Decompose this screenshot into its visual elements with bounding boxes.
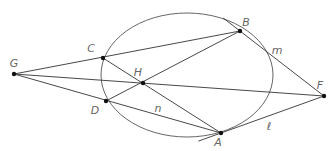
point-C [101, 56, 105, 60]
point-H [141, 81, 145, 85]
label-D: D [91, 104, 99, 117]
label-line-l: ℓ [266, 120, 272, 133]
label-G: G [10, 57, 19, 70]
line-G-F [14, 74, 324, 96]
point-F [322, 94, 326, 98]
point-A [219, 131, 223, 135]
line-C-A [103, 58, 221, 133]
point-B [238, 29, 242, 33]
ellipse-conic [101, 13, 273, 137]
label-C: C [87, 42, 95, 55]
label-A: A [213, 136, 222, 149]
line-G-A [14, 74, 221, 133]
label-line-n: n [155, 102, 162, 115]
label-B: B [242, 16, 250, 29]
line-D-B [106, 31, 240, 101]
point-G [12, 72, 16, 76]
point-D [104, 99, 108, 103]
label-line-m: m [272, 44, 283, 57]
label-F: F [317, 79, 324, 92]
line-G-B [14, 31, 240, 74]
geometry-diagram: G C H D B F A m n ℓ [0, 0, 336, 151]
label-H: H [134, 66, 142, 79]
tangent-line-l [198, 96, 324, 141]
